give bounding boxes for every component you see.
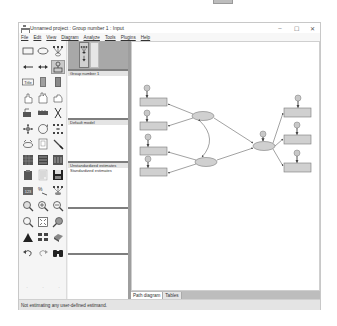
top-edge-block: [213, 0, 233, 4]
draw-unobserved-variable-icon[interactable]: [36, 44, 50, 58]
menu-analyze[interactable]: Analyze: [84, 35, 100, 40]
maximize-button[interactable]: ☐: [288, 23, 304, 33]
add-unique-variable-icon[interactable]: [51, 60, 65, 74]
menu-help[interactable]: Help: [141, 35, 150, 40]
analysis-properties-icon[interactable]: [36, 153, 50, 167]
select-all-objects-icon[interactable]: [36, 91, 50, 105]
panel-toolbar-strip: [68, 41, 128, 69]
draw-covariance-icon[interactable]: [36, 60, 50, 74]
change-shape-icon[interactable]: [21, 122, 35, 136]
window-title: Unnamed project : Group number 1 : Input: [30, 25, 124, 31]
view-text-icon[interactable]: [36, 168, 50, 182]
status-bar: Not estimating any user-defined estimand…: [19, 299, 320, 310]
list-variables-in-model-icon[interactable]: [36, 75, 50, 89]
input-view-button[interactable]: [79, 42, 89, 68]
window-controls: – ☐ ✕: [272, 23, 320, 33]
degrees-of-freedom-icon[interactable]: [21, 230, 35, 244]
zoom-out-icon[interactable]: [51, 199, 65, 213]
object-properties-icon[interactable]: 123: [21, 184, 35, 198]
scroll-diagram-icon[interactable]: [36, 137, 50, 151]
move-parameter-values-icon[interactable]: [21, 137, 35, 151]
standardized-estimates-item[interactable]: Standardized estimates: [68, 168, 128, 173]
zoom-selected-area-icon[interactable]: [21, 199, 35, 213]
amos-graphics-window: Unnamed project : Group number 1 : Input…: [18, 22, 321, 310]
observed-variables-right: [284, 108, 311, 172]
models-panel: Default model: [68, 118, 128, 161]
save-diagram-icon[interactable]: [51, 168, 65, 182]
erase-objects-icon[interactable]: [51, 106, 65, 120]
menu-edit[interactable]: Edit: [33, 35, 41, 40]
redo-icon[interactable]: [36, 246, 50, 260]
toolbox-overflow-dots: · · ·: [19, 284, 67, 290]
menu-view[interactable]: View: [46, 35, 56, 40]
undo-icon[interactable]: [21, 246, 35, 260]
menu-bar: File Edit View Diagram Analyze Tools Plu…: [19, 33, 320, 41]
model-item[interactable]: Default model: [68, 120, 128, 125]
app-icon: [21, 25, 28, 32]
error-terms-right: [294, 95, 301, 163]
title-bar[interactable]: Unnamed project : Group number 1 : Input…: [19, 23, 320, 33]
rotate-indicators-icon[interactable]: [36, 122, 50, 136]
deselect-all-objects-icon[interactable]: [51, 91, 65, 105]
tab-tables[interactable]: Tables: [163, 292, 181, 299]
output-view-button[interactable]: [90, 42, 99, 68]
computation-summary-panel: [68, 207, 128, 253]
minimize-button[interactable]: –: [272, 23, 288, 33]
menu-file[interactable]: File: [21, 35, 28, 40]
observed-variables-left: [140, 98, 167, 176]
copy-to-clipboard-icon[interactable]: [21, 168, 35, 182]
preserve-symmetries-icon[interactable]: [51, 184, 65, 198]
menu-tools[interactable]: Tools: [105, 35, 116, 40]
path-diagram: [132, 42, 319, 290]
menu-plugins[interactable]: Plugins: [121, 35, 136, 40]
multiple-group-analysis-icon[interactable]: [36, 230, 50, 244]
select-data-files-icon[interactable]: [21, 153, 35, 167]
touch-up-icon[interactable]: [51, 137, 65, 151]
print-diagram-icon[interactable]: [51, 230, 65, 244]
disturbance-term: [260, 131, 266, 141]
draw-path-icon[interactable]: [21, 60, 35, 74]
dot: ·: [58, 284, 60, 290]
panel-column: Group number 1 Default model Unstandardi…: [68, 41, 128, 299]
groups-panel: Group number 1: [68, 69, 128, 118]
specification-search-icon[interactable]: [51, 246, 65, 260]
close-button[interactable]: ✕: [304, 23, 320, 33]
files-panel: [68, 253, 128, 299]
duplicate-objects-icon[interactable]: [21, 106, 35, 120]
svg-text:Title: Title: [24, 80, 32, 85]
resize-to-fit-page-icon[interactable]: [36, 215, 50, 229]
drag-properties-icon[interactable]: %: [36, 184, 50, 198]
estimates-panel: Unstandardized estimates Standardized es…: [68, 161, 128, 207]
latent-variables: [192, 112, 275, 167]
tab-path-diagram[interactable]: Path diagram: [131, 292, 163, 299]
select-one-object-icon[interactable]: [21, 91, 35, 105]
figure-caption-icon[interactable]: Title: [21, 75, 35, 89]
draw-observed-variable-icon[interactable]: [21, 44, 35, 58]
calculate-estimates-icon[interactable]: [51, 153, 65, 167]
draw-latent-indicator-icon[interactable]: [51, 44, 65, 58]
svg-text:%: %: [38, 186, 43, 192]
zoom-in-icon[interactable]: [36, 199, 50, 213]
paths: [168, 104, 283, 173]
show-whole-page-icon[interactable]: [21, 215, 35, 229]
path-diagram-canvas[interactable]: [131, 41, 320, 291]
reflect-indicators-icon[interactable]: [51, 122, 65, 136]
toolbox: Title: [19, 41, 67, 299]
view-tabs: Path diagram Tables: [131, 291, 320, 299]
list-variables-in-dataset-icon[interactable]: [51, 75, 65, 89]
dot: ·: [26, 284, 28, 290]
magnifying-glass-icon[interactable]: [51, 215, 65, 229]
menu-diagram[interactable]: Diagram: [61, 35, 78, 40]
svg-text:123: 123: [25, 189, 32, 194]
dot: ·: [42, 284, 44, 290]
move-objects-icon[interactable]: [36, 106, 50, 120]
group-item[interactable]: Group number 1: [68, 71, 128, 76]
